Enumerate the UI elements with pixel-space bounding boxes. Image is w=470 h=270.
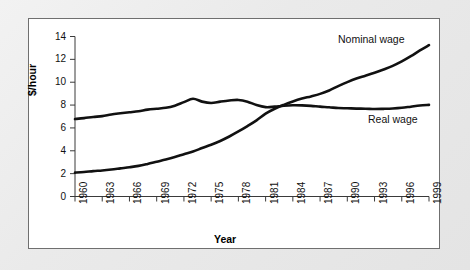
- y-tick-label: 4: [50, 146, 66, 156]
- x-tick-label: 1966: [133, 182, 143, 204]
- x-tick-label: 1990: [351, 182, 361, 204]
- x-tick-label: 1972: [188, 182, 198, 204]
- y-tick-label: 6: [50, 123, 66, 133]
- series-label-nominal-wage: Nominal wage: [338, 33, 405, 45]
- x-tick-label: 1993: [379, 182, 389, 204]
- y-tick-label: 14: [50, 32, 66, 42]
- x-tick-label: 1996: [406, 182, 416, 204]
- y-tick-label: 8: [50, 100, 66, 110]
- x-tick-label: 1969: [161, 182, 171, 204]
- x-tick-label: 1984: [297, 182, 307, 204]
- y-tick-label: 12: [50, 54, 66, 64]
- x-tick-label: 1963: [106, 182, 116, 204]
- chart-frame: [28, 18, 440, 249]
- x-tick-label: 1978: [242, 182, 252, 204]
- series-label-real-wage: Real wage: [368, 113, 418, 125]
- y-tick-label: 2: [50, 169, 66, 179]
- x-tick-label: 1987: [324, 182, 334, 204]
- x-tick-label: 1999: [433, 182, 443, 204]
- y-axis-title: $/hour: [26, 64, 38, 96]
- x-axis-title: Year: [214, 233, 236, 245]
- x-tick-label: 1975: [215, 182, 225, 204]
- x-tick-label: 1960: [79, 182, 89, 204]
- x-tick-label: 1981: [270, 182, 280, 204]
- y-tick-label: 10: [50, 77, 66, 87]
- y-tick-label: 0: [50, 192, 66, 202]
- figure-root: 02468101214 1960196319661969197219751978…: [0, 0, 470, 270]
